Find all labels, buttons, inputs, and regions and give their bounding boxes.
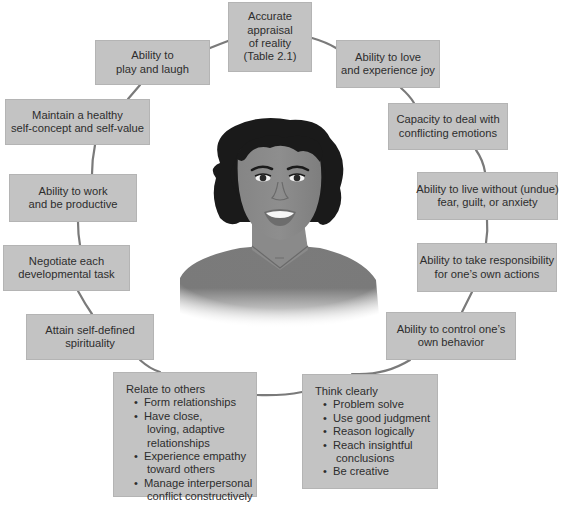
node-think-clearly: Think clearly Problem solve Use good jud… — [302, 374, 438, 489]
node-text: Ability to live without (undue) — [416, 183, 558, 196]
node-accurate-appraisal: Accurate appraisal of reality (Table 2.1… — [228, 2, 312, 72]
node-text: own behavior — [418, 336, 485, 349]
node-text: Ability to take responsibility — [420, 254, 554, 267]
portrait-illustration — [180, 118, 380, 328]
bullet-item: Be creative — [323, 465, 430, 478]
node-title: Think clearly — [315, 385, 378, 398]
node-developmental-task: Negotiate each developmental task — [3, 245, 130, 291]
node-text: developmental task — [18, 268, 114, 281]
bullet-item: Use good judgment — [323, 412, 430, 425]
node-play-laugh: Ability to play and laugh — [95, 40, 210, 85]
bullet-item: Manage interpersonalconflict constructiv… — [134, 477, 253, 504]
node-conflicting-emotions: Capacity to deal with conflicting emotio… — [388, 103, 508, 150]
bullet-list: Form relationships Have close,loving, ad… — [134, 396, 253, 503]
node-text: and be productive — [29, 198, 118, 211]
node-text: and experience joy — [341, 64, 435, 77]
bullet-item: Experience empathytoward others — [134, 450, 253, 477]
node-text: Attain self-defined — [45, 324, 135, 337]
node-text: Ability to control one’s — [397, 323, 506, 336]
node-text: Negotiate each — [29, 255, 104, 268]
node-text: Maintain a healthy — [32, 109, 123, 122]
node-title: Relate to others — [126, 383, 205, 396]
mental-health-diagram: Accurate appraisal of reality (Table 2.1… — [0, 0, 563, 511]
node-text: (Table 2.1) — [244, 50, 297, 63]
node-take-responsibility: Ability to take responsibility for one’s… — [417, 243, 557, 292]
node-relate-to-others: Relate to others Form relationships Have… — [113, 372, 257, 497]
node-work-productive: Ability to work and be productive — [9, 174, 137, 222]
node-text: Ability to — [131, 49, 173, 62]
node-self-concept: Maintain a healthy self-concept and self… — [5, 99, 150, 145]
bullet-item: Form relationships — [134, 396, 253, 409]
node-text: fear, guilt, or anxiety — [437, 196, 537, 209]
bullet-item: Reach insightfulconclusions — [323, 439, 430, 466]
bullet-item: Reason logically — [323, 425, 430, 438]
node-text: Ability to work — [38, 185, 107, 198]
bullet-item: Have close,loving, adaptiverelationships — [134, 410, 253, 450]
node-text: Accurate — [248, 10, 292, 23]
node-text: conflicting emotions — [399, 127, 497, 140]
node-text: play and laugh — [116, 63, 189, 76]
bullet-item: Problem solve — [323, 398, 430, 411]
node-text: self-concept and self-value — [11, 122, 144, 135]
node-text: appraisal — [247, 24, 292, 37]
node-text: Capacity to deal with — [396, 113, 499, 126]
node-love-joy: Ability to love and experience joy — [336, 40, 440, 88]
node-live-without-fear: Ability to live without (undue) fear, gu… — [417, 172, 558, 220]
node-spirituality: Attain self-defined spirituality — [26, 314, 154, 360]
node-text: Ability to love — [355, 51, 421, 64]
node-text: spirituality — [65, 337, 115, 350]
node-control-behavior: Ability to control one’s own behavior — [386, 312, 516, 360]
node-text: for one’s own actions — [435, 268, 540, 281]
node-text: of reality — [249, 37, 291, 50]
bullet-list: Problem solve Use good judgment Reason l… — [323, 398, 430, 478]
